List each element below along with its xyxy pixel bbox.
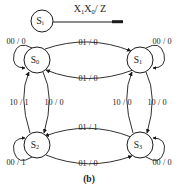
edge-label-s2-self: 00 / 1 (6, 158, 25, 167)
legend-arrow-label: X1X0/ Z (74, 3, 106, 15)
state-node-s2[interactable]: S2 (24, 132, 50, 158)
figure-caption: (b) (83, 174, 95, 185)
edge-label-s0-s1: 01 / 0 (78, 38, 97, 47)
edge-label-s3-s1: 10 / 0 (112, 98, 131, 107)
edge-label-s0-s2: 10 / 0 (44, 98, 63, 107)
legend-arrow-head (112, 20, 123, 23)
edge-label-s2-s0: 10 / 1 (9, 98, 28, 107)
edge-label-s1-self: 00 / 0 (152, 37, 171, 46)
edge-label-s3-self: 00 / 0 (152, 158, 171, 167)
legend-group: Si X1X0/ Z (31, 3, 123, 32)
edge-label-s1-s3: 10 / 0 (147, 98, 166, 107)
edge-label-s3-s2: 01 / 0 (78, 159, 97, 168)
state-node-s1[interactable]: S1 (127, 47, 153, 73)
edge-label-s0-self: 00 / 0 (6, 37, 25, 46)
state-node-s0[interactable]: S0 (24, 47, 50, 73)
state-node-s3[interactable]: S3 (127, 132, 153, 158)
state-diagram-figure: Si X1X0/ Z S0 (0, 0, 180, 188)
edge-label-s1-s0: 01 / 0 (78, 74, 97, 83)
fsm-canvas: Si X1X0/ Z S0 (0, 0, 180, 188)
edge-label-s2-s3: 01 / 1 (78, 123, 97, 132)
